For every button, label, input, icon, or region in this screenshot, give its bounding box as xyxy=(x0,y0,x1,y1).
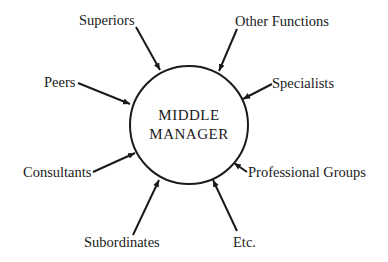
arrow-superiors xyxy=(136,27,160,70)
arrow-etc xyxy=(213,180,237,231)
node-superiors: Superiors xyxy=(79,13,135,28)
arrow-subordinates xyxy=(133,180,159,235)
node-peers: Peers xyxy=(44,75,75,90)
node-etc: Etc. xyxy=(233,235,256,250)
arrow-professional-groups xyxy=(234,163,247,172)
arrow-peers xyxy=(78,83,130,104)
center-line2: MANAGER xyxy=(130,125,248,144)
node-subordinates: Subordinates xyxy=(84,235,160,250)
arrow-other-functions xyxy=(219,29,237,71)
node-professional-groups: Professional Groups xyxy=(248,165,366,180)
node-other-functions: Other Functions xyxy=(235,14,329,29)
center-line1: MIDDLE xyxy=(130,106,248,125)
node-consultants: Consultants xyxy=(23,165,91,180)
center-label: MIDDLE MANAGER xyxy=(130,106,248,144)
arrow-specialists xyxy=(243,84,272,99)
node-specialists: Specialists xyxy=(272,76,334,91)
arrow-consultants xyxy=(93,153,135,172)
